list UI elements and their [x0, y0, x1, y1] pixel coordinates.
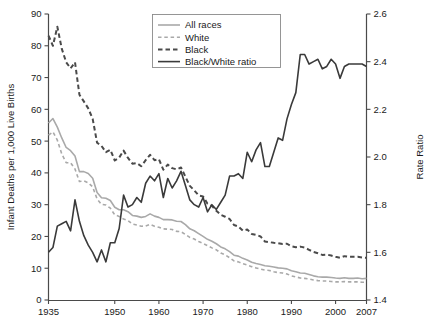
x-tick-label: 1935: [38, 306, 59, 317]
y-tick-label: 40: [31, 167, 42, 178]
x-tick-label: 2000: [325, 306, 346, 317]
legend-label-1: White: [185, 32, 209, 43]
right-axis-ticks: 1.41.61.82.02.22.42.6: [367, 8, 387, 305]
y-tick-label: 60: [31, 104, 42, 115]
y2-tick-label: 2.6: [374, 8, 387, 19]
y2-tick-label: 1.6: [374, 247, 387, 258]
infant-mortality-line-chart: 0102030405060708090 1.41.61.82.02.22.42.…: [0, 0, 433, 329]
y-tick-label: 30: [31, 199, 42, 210]
y2-tick-label: 2.0: [374, 151, 387, 162]
y2-tick-label: 2.2: [374, 104, 387, 115]
y2-tick-label: 1.8: [374, 199, 387, 210]
x-axis-ticks: 19351950196019701980199020002007: [38, 300, 377, 317]
y-tick-label: 50: [31, 136, 42, 147]
x-tick-label: 1970: [193, 306, 214, 317]
y2-tick-label: 2.4: [374, 56, 387, 67]
legend-label-0: All races: [185, 19, 222, 30]
left-axis-ticks: 0102030405060708090: [31, 8, 49, 305]
x-tick-label: 1960: [148, 306, 169, 317]
x-tick-label: 1990: [281, 306, 302, 317]
legend-label-3: Black/White ratio: [185, 56, 256, 67]
series-line-black-white-ratio: [49, 55, 367, 262]
x-tick-label: 1950: [104, 306, 125, 317]
y-axis-title: Infant Deaths per 1,000 Live Births: [5, 84, 16, 231]
y2-axis-title: Rate Ratio: [414, 135, 425, 180]
chart-figure: 0102030405060708090 1.41.61.82.02.22.42.…: [0, 0, 433, 329]
chart-legend: All racesWhiteBlackBlack/White ratio: [153, 15, 281, 68]
x-tick-label: 2007: [356, 306, 377, 317]
y-tick-label: 80: [31, 40, 42, 51]
x-tick-label: 1980: [237, 306, 258, 317]
y-tick-label: 10: [31, 263, 42, 274]
legend-label-2: Black: [185, 44, 208, 55]
y-tick-label: 90: [31, 8, 42, 19]
y-tick-label: 20: [31, 231, 42, 242]
y-tick-label: 70: [31, 72, 42, 83]
y-tick-label: 0: [36, 294, 41, 305]
y2-tick-label: 1.4: [374, 294, 387, 305]
